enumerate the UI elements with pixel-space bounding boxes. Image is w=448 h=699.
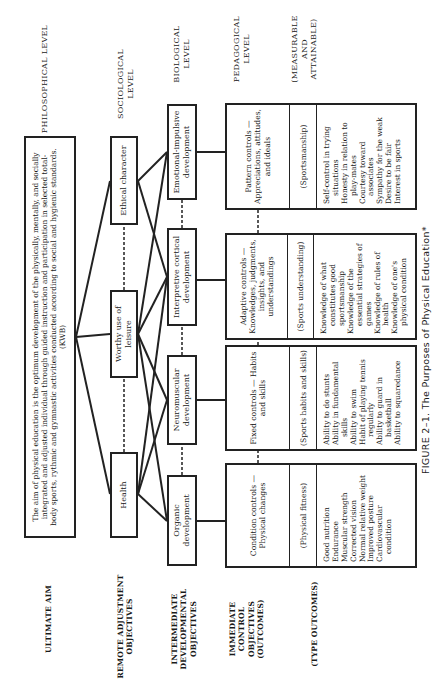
remote-objective-label: Ethical character [119, 145, 129, 215]
control-heading: Condition controls — Physical changes [227, 465, 290, 566]
dev-objective-emotional: Emotional-impulsive development [167, 104, 197, 200]
outcome-item: Ability in fundamental skills [332, 351, 350, 445]
row-label-intermediate: INTERMEDIATE DEVELOPMENTAL OBJECTIVES [170, 574, 198, 684]
level-label-philosophical: PHILOSOPHICAL LEVEL [40, 24, 50, 134]
control-category: (Sports habits and skills) [290, 347, 317, 449]
control-heading: Pattern controls — Appreciations, attitu… [227, 105, 290, 208]
outcome-item: Knowledge of the essential strategies of… [347, 239, 374, 334]
outcome-item: Knowledge of rules of health [374, 239, 392, 334]
control-heading: Adaptive controls — Knowledges, judgment… [227, 235, 288, 338]
outcome-item: Knowledge of what constitutes good sport… [320, 239, 347, 334]
remote-objective-leisure: Worthy use of leisure [110, 290, 138, 378]
dev-objective-interpretive: Interpretive cortical development [167, 228, 197, 326]
row-label-type-outcomes: (TYPE OUTCOMES) [310, 569, 319, 679]
outcome-item: Self-control in trying situations [323, 109, 341, 204]
outcome-item: Cardiovascular condition [376, 469, 394, 562]
dev-objective-neuromuscular: Neuromuscular development [167, 355, 197, 445]
remote-objective-label: Worthy use of leisure [114, 292, 133, 376]
outcome-item: Courtesy toward associates [359, 109, 377, 204]
outcome-item: Ability to squaredance [394, 351, 403, 445]
dev-objective-label: Neuromuscular development [172, 357, 191, 443]
dev-objective-label: Organic development [172, 477, 191, 564]
dev-objective-label: Interpretive cortical development [172, 230, 191, 324]
row-label-ultimate-aim: ULTIMATE AIM [44, 559, 53, 679]
outcome-list: Good nutrition Endurance Muscular streng… [317, 465, 415, 566]
remote-objective-label: Health [119, 481, 129, 508]
level-label-sociological: SOCIOLOGICAL LEVEL [116, 39, 135, 129]
outcome-list: Knowledge of what constitutes good sport… [314, 235, 415, 338]
ultimate-aim-box: The aim of physical education is the opt… [24, 136, 76, 538]
figure-caption: FIGURE 2–1. The Purposes of Physical Edu… [420, 74, 431, 474]
remote-objective-health: Health [110, 452, 138, 538]
outcome-item: Interest in sports [394, 109, 403, 204]
level-label-measurable: (MEASURABLE AND ATTAINABLE) [290, 9, 319, 89]
control-category: (Sports understanding) [288, 235, 314, 338]
outcome-item: Honesty in relation to play-mates [341, 109, 359, 204]
outcome-list: Ability to do stunts Ability in fundamen… [317, 347, 415, 449]
control-column-fixed: Fixed controls — Habits and skills (Spor… [225, 345, 417, 451]
row-label-remote: REMOTE ADJUSTMENT OBJECTIVES [116, 569, 135, 684]
level-label-biological: BIOLOGICAL LEVEL [172, 14, 191, 94]
dev-objective-organic: Organic development [167, 475, 197, 566]
dev-objective-label: Emotional-impulsive development [172, 106, 191, 198]
outcome-item: Habit of playing tennis regularly [359, 351, 377, 445]
control-heading: Fixed controls — Habits and skills [227, 347, 290, 449]
control-column-pattern: Pattern controls — Appreciations, attitu… [225, 103, 417, 210]
level-label-pedagogical: PEDAGOGICAL LEVEL [232, 9, 251, 89]
control-column-condition: Condition controls — Physical changes (P… [225, 463, 417, 568]
diagram-stage: ULTIMATE AIM REMOTE ADJUSTMENT OBJECTIVE… [0, 0, 448, 699]
row-label-immediate: IMMEDIATE CONTROL OBJECTIVES (OUTCOMES) [228, 589, 266, 669]
outcome-list: Self-control in trying situations Honest… [317, 105, 415, 208]
control-category: (Sportsmanship) [290, 105, 317, 208]
control-category: (Physical fitness) [290, 465, 317, 566]
control-column-adaptive: Adaptive controls — Knowledges, judgment… [225, 233, 417, 340]
outcome-item: Knowledge of one's physical condition [391, 239, 409, 334]
outcome-item: Ability to guard in basketball [376, 351, 394, 445]
remote-objective-ethical: Ethical character [110, 136, 138, 225]
aim-text: The aim of physical education is the opt… [32, 146, 68, 528]
